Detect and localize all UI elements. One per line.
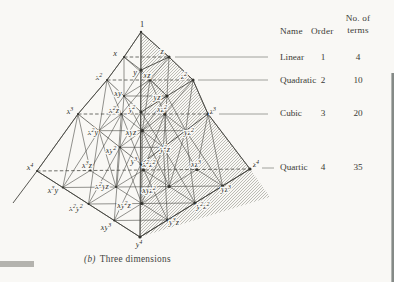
lattice-dot (168, 185, 171, 188)
term-label-x4: x4 (26, 162, 34, 172)
lattice-edge (90, 114, 121, 171)
lattice-edge (63, 131, 99, 188)
scan-artifact-bottom-left (0, 261, 34, 267)
lattice-dot (113, 220, 115, 222)
lattice-dot (141, 129, 144, 132)
lattice-dot (106, 79, 108, 81)
term-label-xz: xz (143, 71, 152, 80)
lattice-dot (120, 113, 122, 115)
term-label-xy2: xy2 (105, 145, 116, 155)
lattice-dot (139, 110, 142, 113)
caption-prefix: (b) (84, 254, 96, 264)
term-label-x2y2: x2y2 (68, 203, 82, 213)
slice-grid-line (63, 171, 91, 188)
term-label-y2: y2 (128, 104, 136, 114)
table-header-name: Name (280, 26, 303, 36)
term-label-xyz: xyz (125, 128, 137, 137)
row-quadratic-name: Quadratic (280, 75, 316, 85)
row-cubic-name: Cubic (280, 108, 302, 118)
table-header-order: Order (311, 26, 333, 36)
lattice-dot (248, 167, 251, 170)
term-label-xy3: xy3 (100, 222, 111, 232)
figure-caption: (b)Three dimensions (84, 254, 171, 264)
term-label-x2z: x2z (108, 105, 120, 115)
lattice-dot (88, 203, 90, 205)
term-label-yz: yz (153, 93, 162, 102)
row-quartic-order: 4 (316, 162, 330, 172)
lattice-dot (140, 31, 142, 33)
lattice-dot (123, 56, 125, 58)
row-quartic-terms: 35 (343, 162, 373, 172)
term-label-1: 1 (140, 20, 144, 29)
lattice-dot (62, 187, 64, 189)
row-quartic-name: Quartic (280, 162, 308, 172)
lattice-dot (77, 113, 79, 115)
lattice-dot (98, 130, 100, 132)
term-label-x3y: x3y (47, 185, 59, 195)
lattice-edge (89, 147, 121, 204)
lattice-dot (36, 170, 38, 172)
lattice-dot (123, 95, 125, 97)
slice-grid-line (99, 114, 121, 131)
lattice-dot (167, 55, 170, 58)
lattice-dot (165, 94, 168, 97)
row-quadratic-terms: 10 (343, 75, 373, 85)
lattice-dot (115, 186, 117, 188)
table-header-terms: terms (343, 25, 373, 35)
lattice-dot (140, 202, 143, 205)
term-label-x: x (112, 49, 117, 58)
caption-text: Three dimensions (100, 254, 171, 264)
term-label-xy2z: xy2z (116, 200, 131, 210)
term-label-x2: x2 (95, 72, 103, 82)
term-label-x3z: x3z (81, 160, 93, 170)
term-label-x2y: x2y (87, 127, 99, 137)
table-header-no-of: No. of (343, 13, 373, 23)
term-label-x3: x3 (66, 106, 74, 116)
term-label-xy: xy (113, 89, 122, 98)
row-linear-order: 1 (316, 52, 330, 62)
term-label-y3: y3 (130, 156, 138, 166)
term-label-z4: z4 (252, 159, 259, 169)
row-linear-name: Linear (280, 52, 304, 62)
term-label-x2yz: x2yz (94, 181, 109, 191)
row-quadratic-order: 2 (316, 75, 330, 85)
lattice-dot (191, 78, 194, 81)
term-label-y4: y4 (135, 239, 143, 249)
textbook-figure-page: 1xyzx2xyy2xzyzz2x3x2yxy2y3x2zxyzy2zxz2yz… (0, 0, 394, 282)
row-cubic-terms: 20 (343, 108, 373, 118)
row-cubic-order: 3 (316, 108, 330, 118)
row-linear-terms: 4 (343, 52, 373, 62)
pascal-tetrahedron-diagram: 1xyzx2xyy2xzyzz2x3x2yxy2y3x2zxyzy2zxz2yz… (0, 0, 394, 282)
term-label-y: y (132, 68, 137, 77)
lattice-dot (119, 146, 121, 148)
lattice-edge (116, 114, 121, 187)
lattice-dot (139, 68, 142, 71)
term-label-z3: z3 (209, 106, 216, 116)
